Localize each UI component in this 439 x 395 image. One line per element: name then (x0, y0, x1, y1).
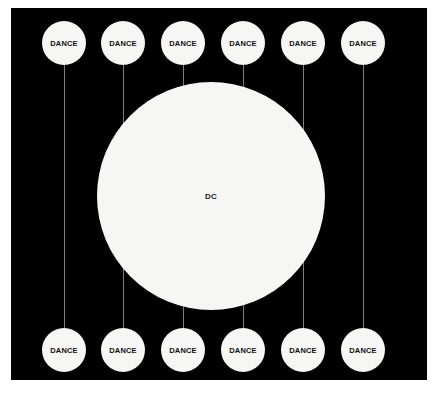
hub-node-dc[interactable]: DC (97, 82, 325, 310)
top-node-dance-label: DANCE (289, 39, 317, 48)
top-node-dance-4[interactable]: DANCE (221, 21, 265, 65)
bottom-node-dance-3[interactable]: DANCE (161, 328, 205, 372)
diagram-root: DC DANCEDANCEDANCEDANCEDANCEDANCE DANCED… (0, 0, 439, 395)
diagram-canvas-panel: DC DANCEDANCEDANCEDANCEDANCEDANCE DANCED… (11, 8, 427, 380)
connector-line-1 (64, 65, 65, 328)
top-node-dance-label: DANCE (109, 39, 137, 48)
bottom-node-dance-1[interactable]: DANCE (42, 328, 86, 372)
bottom-node-dance-label: DANCE (349, 346, 377, 355)
bottom-node-dance-6[interactable]: DANCE (341, 328, 385, 372)
top-node-dance-5[interactable]: DANCE (281, 21, 325, 65)
bottom-node-dance-5[interactable]: DANCE (281, 328, 325, 372)
hub-node-label: DC (97, 192, 325, 201)
top-node-dance-2[interactable]: DANCE (101, 21, 145, 65)
top-node-dance-3[interactable]: DANCE (161, 21, 205, 65)
bottom-node-dance-4[interactable]: DANCE (221, 328, 265, 372)
bottom-node-dance-label: DANCE (50, 346, 78, 355)
connector-line-6 (363, 65, 364, 328)
bottom-node-dance-label: DANCE (109, 346, 137, 355)
bottom-node-dance-2[interactable]: DANCE (101, 328, 145, 372)
top-node-dance-1[interactable]: DANCE (42, 21, 86, 65)
top-node-dance-label: DANCE (229, 39, 257, 48)
top-node-dance-label: DANCE (50, 39, 78, 48)
bottom-node-dance-label: DANCE (289, 346, 317, 355)
bottom-node-dance-label: DANCE (229, 346, 257, 355)
bottom-node-dance-label: DANCE (169, 346, 197, 355)
top-node-dance-label: DANCE (169, 39, 197, 48)
top-node-dance-6[interactable]: DANCE (341, 21, 385, 65)
top-node-dance-label: DANCE (349, 39, 377, 48)
